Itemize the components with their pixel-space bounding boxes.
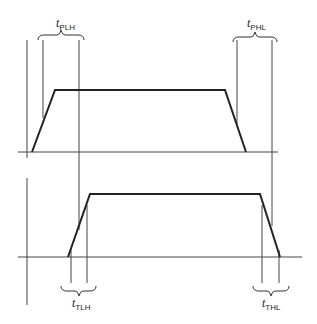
tthl-brace [253,286,289,296]
timing-diagram: tPLH tPHL tTLH tTHL [0,0,317,324]
tphl-label: tPHL [247,16,266,32]
tplh-label: tPLH [56,16,75,32]
ttlh-brace [61,286,96,296]
output-waveform [68,194,280,257]
tphl-brace [233,32,277,42]
tthl-label: tTHL [262,296,281,312]
ttlh-label: tTLH [72,296,91,312]
input-waveform [32,90,246,152]
